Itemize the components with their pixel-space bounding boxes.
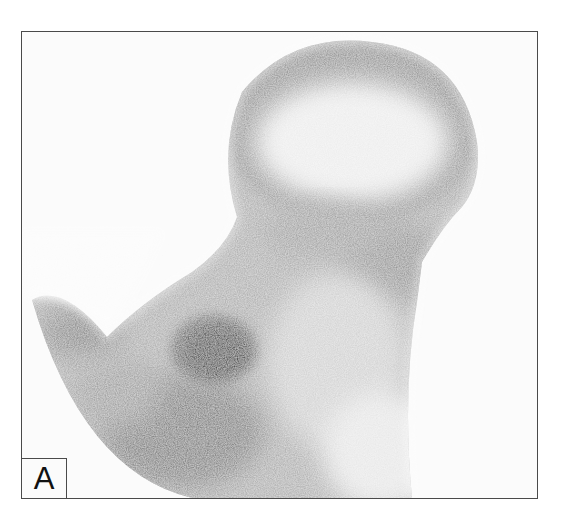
scan-image [22,32,537,498]
panel-label: A [22,458,67,498]
scintigraphy-panel: A [21,31,538,499]
